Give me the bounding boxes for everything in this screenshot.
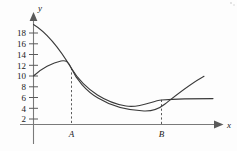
x-marker-label-B: B <box>159 129 165 139</box>
ytick-label-18: 18 <box>17 28 27 38</box>
paper-speck <box>233 4 235 6</box>
curve-upper-decreasing <box>34 25 214 107</box>
ytick-label-4: 4 <box>22 104 27 114</box>
function-graph-figure: 18 16 14 12 10 8 6 4 2 y x A B <box>0 0 237 151</box>
curve-lower-max-min <box>34 61 205 111</box>
ytick-label-6: 6 <box>22 93 27 103</box>
ytick-label-12: 12 <box>17 61 26 71</box>
paper-speck <box>230 2 232 4</box>
y-axis-arrowhead <box>30 12 38 21</box>
x-axis-label: x <box>226 120 231 130</box>
ytick-label-10: 10 <box>17 71 27 81</box>
ytick-label-14: 14 <box>17 50 27 60</box>
x-axis-arrowhead <box>214 121 224 129</box>
ytick-label-16: 16 <box>17 39 27 49</box>
y-axis-label: y <box>37 3 42 13</box>
x-marker-label-A: A <box>68 129 75 139</box>
ytick-label-8: 8 <box>22 82 27 92</box>
ytick-label-2: 2 <box>22 114 27 124</box>
